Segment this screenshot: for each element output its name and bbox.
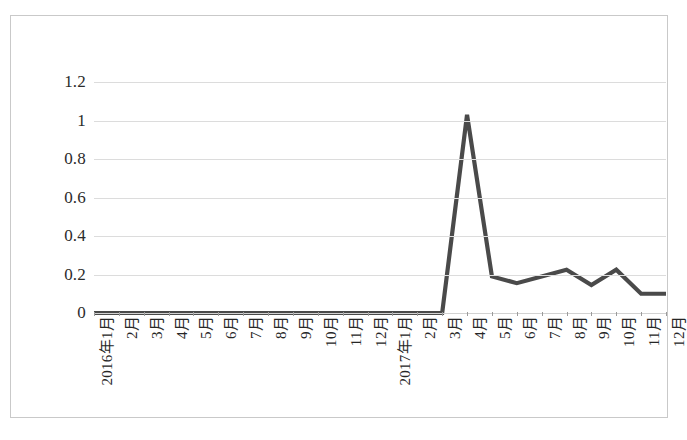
- x-axis-tick-label: 11月: [349, 316, 364, 346]
- x-axis-tick-label: 12月: [672, 316, 687, 347]
- x-axis-tick-mark: [169, 312, 170, 316]
- x-axis-tick-label: 10月: [324, 316, 339, 347]
- gridline: [94, 121, 666, 122]
- gridline: [94, 159, 666, 160]
- x-axis-tick-mark: [467, 312, 468, 316]
- y-axis: 1.210.80.60.40.20: [31, 82, 86, 313]
- x-axis-tick-label: 8月: [573, 316, 588, 339]
- gridline: [94, 313, 666, 314]
- gridline: [94, 198, 666, 199]
- x-axis-tick-mark: [591, 312, 592, 316]
- x-axis-tick-label: 7月: [548, 316, 563, 339]
- x-axis-tick-mark: [492, 312, 493, 316]
- gridline: [94, 82, 666, 83]
- x-axis-tick-label: 8月: [274, 316, 289, 339]
- x-axis-tick-mark: [119, 312, 120, 316]
- y-axis-tick-label: 0.8: [64, 150, 86, 167]
- x-axis-tick-label: 7月: [249, 316, 264, 339]
- y-axis-tick-label: 0.6: [64, 189, 86, 206]
- x-axis-tick-label: 4月: [175, 316, 190, 339]
- x-axis-tick-mark: [94, 312, 95, 316]
- x-axis-tick-mark: [268, 312, 269, 316]
- x-axis-tick-label: 3月: [150, 316, 165, 339]
- x-axis-tick-label: 2月: [423, 316, 438, 339]
- x-axis-tick-mark: [368, 312, 369, 316]
- y-axis-tick-label: 0.2: [64, 266, 86, 283]
- x-axis-tick-label: 3月: [448, 316, 463, 339]
- x-axis-tick-mark: [343, 312, 344, 316]
- y-axis-tick-label: 1.2: [64, 73, 86, 90]
- y-axis-tick-label: 0.4: [64, 227, 86, 244]
- x-axis-tick-label: 2016年1月: [100, 316, 115, 386]
- x-axis-tick-label: 4月: [473, 316, 488, 339]
- x-axis-tick-mark: [517, 312, 518, 316]
- x-axis-tick-label: 12月: [374, 316, 389, 347]
- gridline: [94, 275, 666, 276]
- x-axis-tick-label: 2017年1月: [398, 316, 413, 386]
- x-axis-tick-label: 5月: [199, 316, 214, 339]
- x-axis-tick-mark: [417, 312, 418, 316]
- x-axis-tick-mark: [243, 312, 244, 316]
- x-axis-tick-label: 9月: [299, 316, 314, 339]
- x-axis-tick-mark: [144, 312, 145, 316]
- series-line: [94, 115, 666, 313]
- plot-area: [94, 82, 666, 313]
- x-axis-tick-label: 10月: [622, 316, 637, 347]
- x-axis-tick-mark: [567, 312, 568, 316]
- x-axis-tick-label: 6月: [224, 316, 239, 339]
- scan-artifact: [236, 430, 536, 440]
- x-axis-tick-mark: [218, 312, 219, 316]
- x-axis-tick-mark: [392, 312, 393, 316]
- x-axis-tick-label: 11月: [647, 316, 662, 346]
- x-axis: 2016年1月2月3月4月5月6月7月8月9月10月11月12月2017年1月2…: [94, 316, 666, 434]
- x-axis-tick-mark: [293, 312, 294, 316]
- x-axis-tick-label: 5月: [498, 316, 513, 339]
- gridline: [94, 236, 666, 237]
- x-axis-tick-label: 2月: [125, 316, 140, 339]
- y-axis-tick-label: 0: [77, 304, 86, 321]
- x-axis-tick-label: 6月: [523, 316, 538, 339]
- x-axis-tick-label: 9月: [597, 316, 612, 339]
- x-axis-tick-mark: [666, 312, 667, 316]
- x-axis-tick-mark: [318, 312, 319, 316]
- x-axis-tick-mark: [542, 312, 543, 316]
- x-axis-tick-mark: [616, 312, 617, 316]
- x-axis-tick-mark: [442, 312, 443, 316]
- chart-frame: 1.210.80.60.40.20 2016年1月2月3月4月5月6月7月8月9…: [10, 15, 668, 418]
- x-axis-tick-mark: [193, 312, 194, 316]
- x-axis-tick-mark: [641, 312, 642, 316]
- y-axis-tick-label: 1: [77, 112, 86, 129]
